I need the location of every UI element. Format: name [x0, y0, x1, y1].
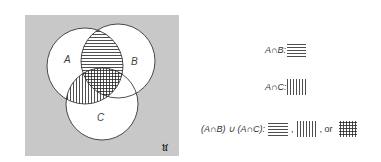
set-b-label: B	[131, 56, 138, 67]
universe-label: 𝔘	[162, 143, 168, 154]
horizontal-lines-icon	[268, 122, 288, 136]
crosshatch-icon	[339, 121, 357, 137]
horizontal-lines-icon	[286, 43, 306, 57]
set-c-label: C	[97, 112, 104, 123]
vertical-lines-icon	[296, 121, 316, 137]
separator-comma: ,	[291, 124, 294, 134]
separator-or: , or	[319, 124, 332, 134]
legend-a-and-c-label: A∩C:	[265, 82, 286, 92]
legend-union-label: (A∩B) ∪ (A∩C):	[201, 124, 265, 134]
legend-a-and-c: A∩C:	[265, 79, 306, 95]
legend-a-and-b-label: A∩B:	[265, 45, 286, 55]
legend-a-and-b: A∩B:	[265, 43, 306, 57]
legend-union: (A∩B) ∪ (A∩C): , , or	[201, 121, 357, 137]
vertical-lines-icon	[286, 79, 306, 95]
venn-diagram	[0, 0, 381, 162]
set-a-label: A	[64, 54, 71, 65]
